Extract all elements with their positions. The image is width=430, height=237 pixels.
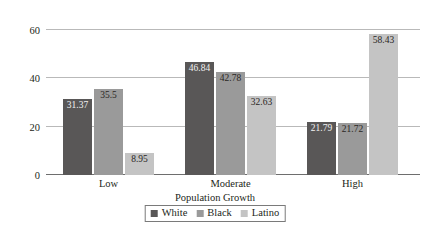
- x-tick-label-low: Low: [99, 178, 118, 189]
- bar-value-label: 42.78: [216, 73, 245, 84]
- x-tick-label-moderate: Moderate: [210, 178, 250, 189]
- legend-label: Latino: [252, 207, 279, 219]
- y-tick-label: 60: [30, 25, 41, 36]
- bar-latino-moderate: 32.63: [247, 96, 276, 175]
- bar-value-label: 21.72: [338, 124, 367, 135]
- gridline-60: [46, 29, 420, 30]
- legend-label: White: [162, 207, 188, 219]
- bar-value-label: 35.5: [94, 90, 123, 101]
- x-tick-label-high: High: [342, 178, 363, 189]
- legend-swatch-icon: [196, 210, 203, 217]
- bar-value-label: 21.79: [307, 123, 336, 134]
- bar-value-label: 8.95: [125, 154, 154, 165]
- y-tick-label: 20: [30, 121, 41, 132]
- bar-black-low: 35.5: [94, 89, 123, 175]
- bar-white-moderate: 46.84: [185, 62, 214, 175]
- x-axis-title: Population Growth: [0, 192, 430, 203]
- bar-latino-low: 8.95: [125, 153, 154, 175]
- bar-black-high: 21.72: [338, 123, 367, 175]
- bar-chart: 0204060 31.3735.58.9546.8442.7832.6321.7…: [0, 0, 430, 237]
- legend-swatch-icon: [241, 210, 248, 217]
- legend-swatch-icon: [151, 210, 158, 217]
- bar-white-low: 31.37: [63, 99, 92, 175]
- bar-value-label: 46.84: [185, 63, 214, 74]
- plot-area: 31.3735.58.9546.8442.7832.6321.7921.7258…: [46, 18, 420, 175]
- y-tick-label: 0: [35, 170, 40, 181]
- y-axis: 0204060: [0, 18, 46, 175]
- bar-value-label: 58.43: [369, 35, 398, 46]
- bar-value-label: 31.37: [63, 100, 92, 111]
- bar-latino-high: 58.43: [369, 34, 398, 175]
- bar-white-high: 21.79: [307, 122, 336, 175]
- y-tick-label: 40: [30, 73, 41, 84]
- legend-label: Black: [207, 207, 232, 219]
- bar-value-label: 32.63: [247, 97, 276, 108]
- bar-black-moderate: 42.78: [216, 72, 245, 175]
- legend-item-latino: Latino: [241, 207, 279, 219]
- legend-item-white: White: [151, 207, 188, 219]
- legend: WhiteBlackLatino: [145, 205, 286, 222]
- legend-item-black: Black: [196, 207, 232, 219]
